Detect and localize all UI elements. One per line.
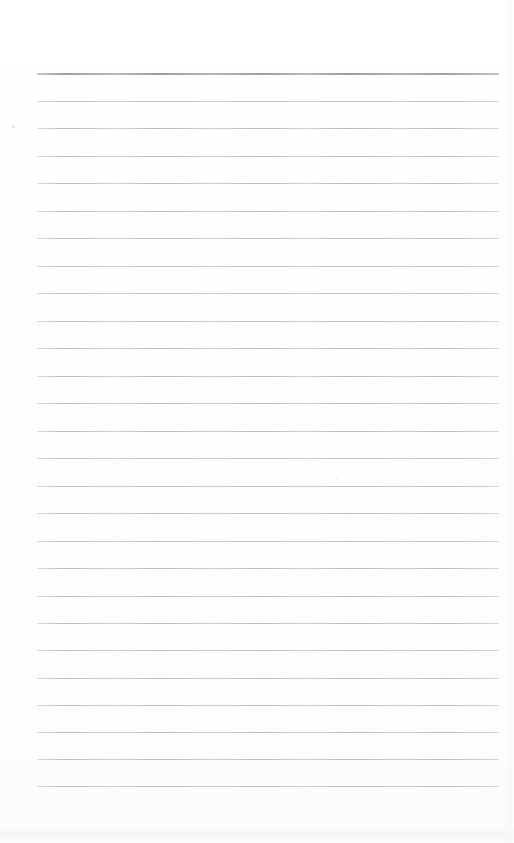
rule-line [37,348,499,349]
header-rule-line [37,73,499,75]
rule-line [37,678,499,679]
rule-line [37,128,499,129]
rule-line [37,238,499,239]
rule-line [37,156,499,157]
scanned-page [0,0,514,843]
rule-line [37,513,499,514]
rule-line [37,486,499,487]
rule-line [37,568,499,569]
rule-line [37,786,499,787]
rule-line [37,431,499,432]
rule-line [37,403,499,404]
rule-line [37,211,499,212]
rule-line [37,376,499,377]
rule-line [37,183,499,184]
rule-line [37,759,499,760]
rule-line [37,732,499,733]
rule-line [37,266,499,267]
rule-line [37,458,499,459]
ruled-lines-layer [0,0,514,843]
rule-line [37,623,499,624]
rule-line [37,293,499,294]
rule-line [37,101,499,102]
rule-line [37,541,499,542]
rule-line [37,705,499,706]
rule-line [37,321,499,322]
rule-line [37,650,499,651]
rule-line [37,596,499,597]
